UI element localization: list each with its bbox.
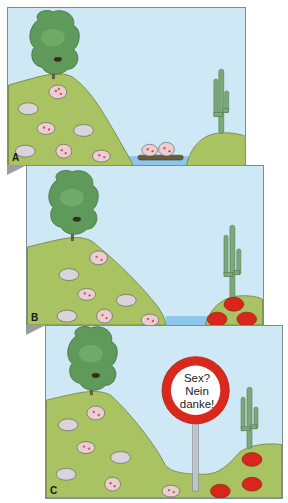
panel-b-scene xyxy=(27,166,263,325)
sign-line-2: Nein xyxy=(167,385,227,398)
panel-a-fold xyxy=(7,165,27,175)
panel-c: Sex? Nein danke! C xyxy=(45,325,283,499)
panel-c-scene xyxy=(46,326,282,498)
log-raft xyxy=(138,155,183,160)
panel-a-scene xyxy=(8,8,245,165)
panel-b-label: B xyxy=(31,312,38,323)
panel-a-label: A xyxy=(12,152,19,163)
sign-pole xyxy=(193,420,199,491)
panel-a: A xyxy=(7,7,246,166)
panel-b: B xyxy=(26,165,264,326)
sign-line-1: Sex? xyxy=(167,372,227,385)
sign-line-3: danke! xyxy=(167,398,227,411)
panel-b-fold xyxy=(26,325,46,335)
sign-text: Sex? Nein danke! xyxy=(167,372,227,411)
panel-c-label: C xyxy=(50,485,57,496)
